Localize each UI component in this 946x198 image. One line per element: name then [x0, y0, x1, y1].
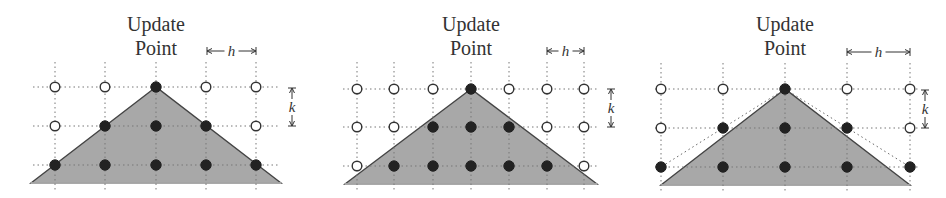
- k-spacing-arrow: k: [921, 90, 929, 128]
- grid-point-filled: [780, 84, 790, 94]
- h-label: h: [562, 43, 570, 59]
- grid-point-filled: [780, 123, 790, 133]
- grid-point-open: [579, 122, 589, 132]
- grid-point-filled: [718, 123, 728, 133]
- grid-point-open: [389, 122, 399, 132]
- panel-1: UpdatePointhk: [31, 13, 296, 190]
- k-label: k: [289, 99, 296, 115]
- grid-point-filled: [151, 160, 161, 170]
- grid-point-open: [718, 84, 728, 94]
- k-spacing-arrow: k: [288, 88, 296, 126]
- title-line-2: Point: [450, 37, 493, 59]
- stencil-diagram: UpdatePointhkUpdatePointhkUpdatePointhk: [0, 0, 946, 198]
- grid-point-filled: [656, 162, 666, 172]
- grid-point-open: [389, 84, 399, 94]
- grid-point-open: [579, 161, 589, 171]
- grid-point-filled: [389, 161, 399, 171]
- grid-point-filled: [100, 160, 110, 170]
- grid-point-filled: [201, 121, 211, 131]
- grid-point-open: [352, 161, 362, 171]
- grid-point-filled: [542, 161, 552, 171]
- grid-point-open: [428, 84, 438, 94]
- title-line-1: Update: [756, 13, 814, 36]
- k-label: k: [922, 101, 929, 117]
- grid-point-open: [50, 121, 60, 131]
- grid-point-open: [352, 122, 362, 132]
- h-label: h: [228, 43, 236, 59]
- k-label: k: [608, 100, 615, 116]
- h-spacing-arrow: h: [207, 43, 256, 59]
- panel-3: UpdatePointhk: [655, 13, 929, 191]
- grid-point-filled: [466, 122, 476, 132]
- grid-point-filled: [504, 161, 514, 171]
- grid-point-filled: [428, 161, 438, 171]
- grid-point-open: [251, 82, 261, 92]
- grid-point-open: [100, 82, 110, 92]
- k-spacing-arrow: k: [607, 89, 615, 127]
- grid-point-filled: [100, 121, 110, 131]
- grid-point-open: [542, 122, 552, 132]
- grid-point-filled: [151, 121, 161, 131]
- grid-point-open: [542, 84, 552, 94]
- title-line-1: Update: [127, 13, 185, 36]
- grid-point-open: [579, 84, 589, 94]
- panel-2: UpdatePointhk: [343, 13, 615, 190]
- grid-point-filled: [842, 123, 852, 133]
- h-label: h: [875, 44, 883, 60]
- title-line-2: Point: [135, 37, 178, 59]
- grid-point-open: [656, 84, 666, 94]
- title-line-2: Point: [764, 37, 807, 59]
- grid-point-open: [251, 121, 261, 131]
- grid-point-open: [504, 84, 514, 94]
- grid-point-filled: [50, 160, 60, 170]
- grid-point-open: [905, 123, 915, 133]
- grid-point-filled: [151, 82, 161, 92]
- grid-point-open: [352, 84, 362, 94]
- grid-point-filled: [780, 162, 790, 172]
- grid-point-filled: [466, 84, 476, 94]
- grid-point-open: [905, 84, 915, 94]
- grid-point-filled: [201, 160, 211, 170]
- grid-point-filled: [905, 162, 915, 172]
- title-line-1: Update: [442, 13, 500, 36]
- grid-point-filled: [428, 122, 438, 132]
- grid-point-filled: [466, 161, 476, 171]
- grid-point-open: [656, 123, 666, 133]
- grid-point-open: [50, 82, 60, 92]
- grid-point-filled: [718, 162, 728, 172]
- grid-point-filled: [842, 162, 852, 172]
- grid-point-open: [201, 82, 211, 92]
- grid-point-open: [842, 84, 852, 94]
- grid-point-filled: [504, 122, 514, 132]
- grid-point-filled: [251, 160, 261, 170]
- h-spacing-arrow: h: [847, 44, 910, 60]
- h-spacing-arrow: h: [547, 43, 584, 59]
